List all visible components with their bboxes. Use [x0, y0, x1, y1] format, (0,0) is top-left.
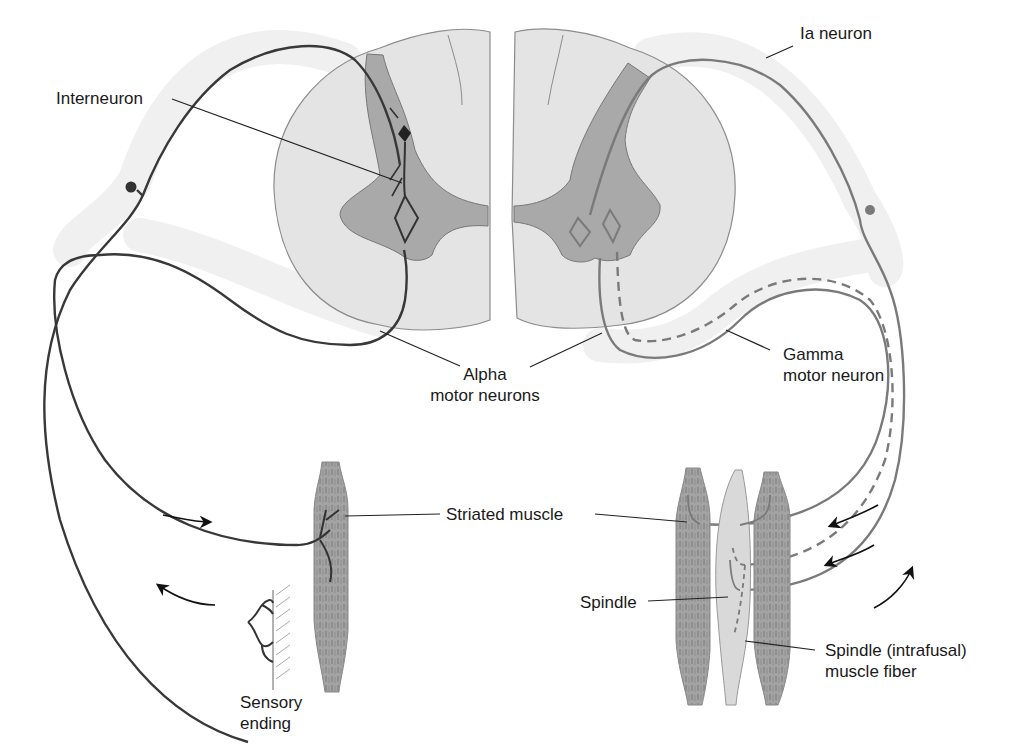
label-gamma-line1: Gamma: [783, 344, 884, 365]
arrow-efferent-left: [163, 515, 210, 522]
label-gamma-line2: motor neuron: [783, 365, 884, 386]
label-sensory-line2: ending: [240, 713, 302, 734]
label-spindle-intrafusal-fiber: Spindle (intrafusal) muscle fiber: [825, 640, 967, 682]
label-alpha-line2: motor neurons: [425, 385, 545, 406]
label-ia-neuron: Ia neuron: [800, 23, 872, 44]
label-sensory-line1: Sensory: [240, 692, 302, 713]
label-alpha-motor-neurons: Alpha motor neurons: [425, 364, 545, 406]
label-interneuron: Interneuron: [56, 88, 143, 109]
label-gamma-motor-neuron: Gamma motor neuron: [783, 344, 884, 386]
arrow-afferent-left: [158, 585, 215, 605]
label-sensory-ending: Sensory ending: [240, 692, 302, 734]
right-muscle-group: [676, 468, 790, 705]
arrow-ia-right: [874, 568, 912, 608]
label-spindle: Spindle: [580, 592, 637, 613]
left-striated-muscle: [298, 462, 348, 692]
sensory-ending: [248, 585, 290, 690]
label-striated-muscle: Striated muscle: [446, 504, 563, 525]
spinal-reflex-diagram: Interneuron Ia neuron Alpha motor neuron…: [0, 0, 1017, 748]
spinal-cord-left-half: [274, 29, 490, 330]
label-spindle-fiber-line2: muscle fiber: [825, 661, 967, 682]
dorsal-root-ganglion-left: [126, 182, 137, 193]
label-spindle-fiber-line1: Spindle (intrafusal): [825, 640, 967, 661]
label-alpha-line1: Alpha: [425, 364, 545, 385]
spindle-capsule: [716, 470, 751, 705]
spinal-cord-right-half: [512, 29, 735, 328]
dorsal-root-ganglion-right: [865, 205, 875, 215]
